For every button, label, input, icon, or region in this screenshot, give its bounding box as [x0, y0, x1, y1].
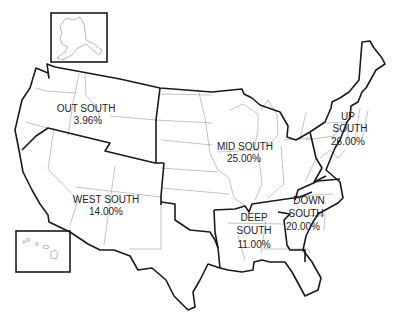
alaska-icon	[57, 17, 102, 60]
region-name: MID SOUTH	[217, 141, 273, 152]
state-borders	[25, 74, 368, 260]
region-label-deep-south: DEEP SOUTH 11.00%	[237, 212, 272, 250]
region-value: 25.00%	[227, 153, 261, 164]
region-name: DEEP	[240, 212, 268, 223]
region-value: 20.00%	[286, 221, 320, 232]
region-value: 3.96%	[74, 115, 102, 126]
region-name-2: SOUTH	[333, 123, 368, 134]
region-label-west-south: WEST SOUTH 14.00%	[73, 194, 139, 217]
region-value: 14.00%	[89, 206, 123, 217]
alaska-inset	[51, 13, 107, 62]
region-label-up-south: UP SOUTH 26.00%	[331, 111, 367, 147]
region-name-2: SOUTH	[237, 225, 272, 236]
region-name: DOWN	[293, 195, 325, 206]
hawaii-inset-frame	[16, 231, 70, 272]
region-label-mid-south: MID SOUTH 25.00%	[217, 141, 273, 164]
region-name: UP	[341, 111, 355, 122]
region-name-2: SOUTH	[289, 208, 324, 219]
region-name: WEST SOUTH	[73, 194, 139, 205]
region-value: 11.00%	[237, 239, 270, 250]
region-label-out-south: OUT SOUTH 3.96%	[57, 103, 116, 126]
hawaii-inset	[16, 231, 70, 272]
hawaii-icon	[23, 239, 58, 260]
region-label-down-south: DOWN SOUTH 20.00%	[286, 195, 325, 232]
region-name: OUT SOUTH	[57, 103, 116, 114]
us-region-map: OUT SOUTH 3.96% MID SOUTH 25.00% UP SOUT…	[0, 0, 401, 318]
region-value: 26.00%	[331, 136, 365, 147]
